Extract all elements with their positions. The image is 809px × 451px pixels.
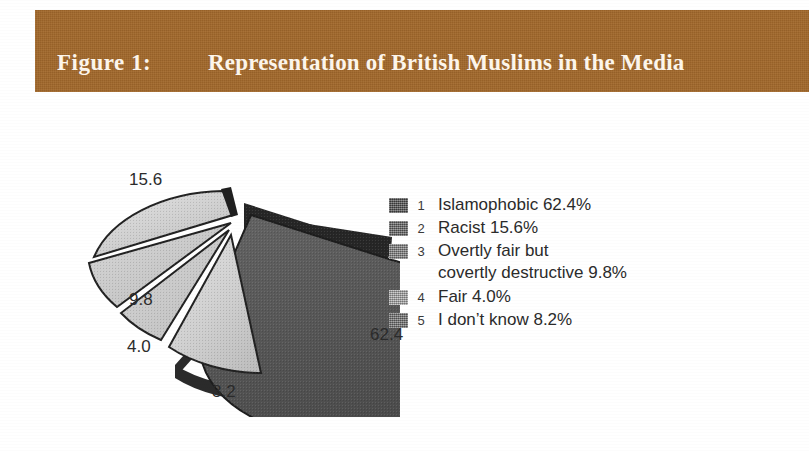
pie-chart-svg: [55, 97, 400, 417]
legend-label-3-line2: covertly destructive 9.8%: [438, 263, 627, 283]
legend-number-1: 1: [412, 198, 430, 213]
legend-item-5: 5 I don’t know 8.2%: [389, 309, 572, 331]
legend-label-1: Islamophobic 62.4%: [438, 195, 591, 215]
legend-number-4: 4: [412, 290, 430, 305]
legend-number-5: 5: [412, 313, 430, 328]
data-label-racist: 15.6: [129, 170, 162, 190]
legend-swatch-1-icon: [389, 198, 408, 213]
data-label-overtly-fair: 9.8: [129, 290, 153, 310]
legend-swatch-3-icon: [389, 244, 408, 259]
legend-item-2: 2 Racist 15.6%: [389, 217, 538, 239]
legend-swatch-4-icon: [389, 290, 408, 305]
legend-label-4: Fair 4.0%: [438, 287, 511, 307]
legend-number-3: 3: [412, 244, 430, 259]
legend-swatch-5-icon: [389, 313, 408, 328]
data-label-dont-know: 8.2: [212, 382, 236, 402]
figure-title-banner: Figure 1: Representation of British Musl…: [35, 10, 809, 92]
legend-item-1: 1 Islamophobic 62.4%: [389, 194, 591, 216]
figure-number-label: Figure 1:: [57, 50, 151, 76]
legend-item-4: 4 Fair 4.0%: [389, 286, 511, 308]
data-label-fair: 4.0: [127, 337, 151, 357]
legend-label-3: Overtly fair but: [438, 241, 549, 261]
figure-title-text: Representation of British Muslims in the…: [208, 50, 684, 76]
legend-label-2: Racist 15.6%: [438, 218, 538, 238]
legend-number-2: 2: [412, 221, 430, 236]
chart-stage: 62.4 15.6 9.8 4.0 8.2 1 Islamophobic 62.…: [0, 92, 809, 451]
legend-item-3: 3 Overtly fair but: [389, 240, 549, 262]
legend-swatch-2-icon: [389, 221, 408, 236]
figure-container: Figure 1: Representation of British Musl…: [0, 0, 809, 451]
legend-label-5: I don’t know 8.2%: [438, 310, 572, 330]
pie-chart: 62.4 15.6 9.8 4.0 8.2: [55, 97, 400, 417]
